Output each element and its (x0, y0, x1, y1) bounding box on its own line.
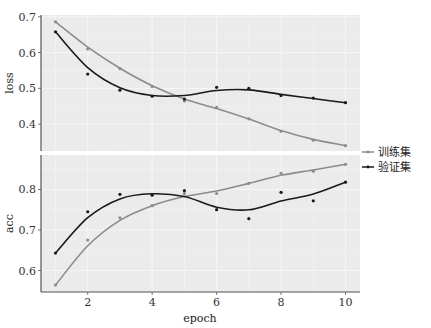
train-point (54, 20, 57, 23)
legend-label-val: 验证集 (378, 160, 411, 174)
y-axis-title-loss: loss (3, 72, 16, 94)
val-point (279, 191, 282, 194)
train-point (118, 216, 121, 219)
y-axis-title-acc: acc (3, 214, 16, 233)
val-point (247, 87, 250, 90)
y-tick-label: 0.6 (19, 265, 37, 278)
x-tick-label: 6 (213, 296, 220, 309)
val-point (54, 251, 57, 254)
val-point (279, 94, 282, 97)
val-point (312, 199, 315, 202)
panel-background (41, 15, 360, 151)
x-tick-label: 10 (339, 296, 353, 309)
panel-loss: 0.40.50.60.7loss (3, 11, 360, 151)
train-point (279, 130, 282, 133)
chart: 0.40.50.60.7loss0.60.70.8acc246810 epoch… (0, 0, 431, 328)
legend-point-val (367, 166, 370, 169)
val-point (344, 181, 347, 184)
y-tick-label: 0.7 (19, 224, 37, 237)
train-point (344, 163, 347, 166)
val-point (215, 86, 218, 89)
val-point (86, 210, 89, 213)
chart-panels: 0.40.50.60.7loss0.60.70.8acc246810 (3, 11, 360, 309)
x-tick-label: 8 (278, 296, 285, 309)
train-point (183, 192, 186, 195)
train-point (54, 284, 57, 287)
val-point (183, 98, 186, 101)
x-tick-label: 2 (84, 296, 91, 309)
val-point (344, 101, 347, 104)
x-tick-label: 4 (149, 296, 156, 309)
train-point (151, 204, 154, 207)
train-point (151, 85, 154, 88)
val-point (151, 95, 154, 98)
val-point (183, 189, 186, 192)
legend-label-train: 训练集 (378, 145, 411, 159)
val-point (215, 208, 218, 211)
y-tick-label: 0.8 (19, 183, 37, 196)
val-point (86, 72, 89, 75)
val-point (118, 89, 121, 92)
train-point (215, 192, 218, 195)
val-point (118, 193, 121, 196)
legend-item-val: 验证集 (362, 160, 411, 174)
train-point (279, 172, 282, 175)
legend: 训练集 验证集 (362, 145, 411, 174)
train-point (86, 47, 89, 50)
legend-item-train: 训练集 (362, 145, 411, 159)
train-point (344, 144, 347, 147)
val-point (151, 194, 154, 197)
y-tick-label: 0.4 (19, 118, 37, 131)
train-point (118, 67, 121, 70)
panel-background (41, 155, 360, 292)
panel-acc: 0.60.70.8acc (3, 155, 360, 292)
train-point (312, 139, 315, 142)
y-tick-label: 0.6 (19, 47, 37, 60)
val-point (312, 96, 315, 99)
y-tick-label: 0.7 (19, 11, 37, 24)
y-tick-label: 0.5 (19, 82, 37, 95)
train-point (215, 106, 218, 109)
train-point (312, 170, 315, 173)
val-point (54, 30, 57, 33)
legend-point-train (367, 151, 370, 154)
x-axis-title: epoch (183, 312, 216, 325)
train-point (247, 182, 250, 185)
train-point (247, 117, 250, 120)
val-point (247, 217, 250, 220)
train-point (86, 239, 89, 242)
